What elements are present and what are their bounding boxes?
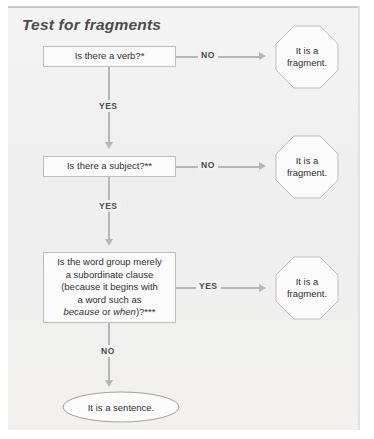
panel-top-rule <box>8 6 360 8</box>
octagon-fragment-1: It is a fragment. <box>275 25 339 89</box>
decision-box-verb[interactable]: Is there a verb?* <box>43 46 176 67</box>
terminal-sentence-label: It is a sentence. <box>88 402 155 413</box>
decision-box-subject[interactable]: Is there a subject?** <box>43 156 176 177</box>
question3-line-1: Is the word group merely <box>57 256 162 268</box>
fragment-2-line-2: fragment. <box>287 167 327 178</box>
question3-line-4: a word such as <box>57 294 162 306</box>
fragment-3-line-2: fragment. <box>287 288 327 299</box>
edge-q3-no-arrowhead <box>105 380 113 387</box>
edge-q1-no-arrowhead <box>259 52 266 60</box>
question3-line-2: a subordinate clause <box>57 269 162 281</box>
octagon-fragment-3: It is a fragment. <box>275 256 339 320</box>
edge-q2-no-arrowhead <box>259 162 266 170</box>
fragment-1-line-1: It is a <box>296 45 319 56</box>
edge-q1-yes-arrowhead <box>105 142 113 149</box>
octagon-fragment-1-label: It is a fragment. <box>287 45 327 70</box>
edge-label-q2-no: NO <box>198 159 218 171</box>
edge-label-q1-no: NO <box>198 49 218 61</box>
octagon-fragment-3-label: It is a fragment. <box>287 276 327 301</box>
edge-q3-yes-arrowhead <box>259 284 266 292</box>
decision-box-verb-label: Is there a verb?* <box>75 50 145 62</box>
panel-right-rule <box>358 6 360 430</box>
octagon-fragment-2-label: It is a fragment. <box>287 155 327 180</box>
fragment-2-line-1: It is a <box>296 155 319 166</box>
figure-title: Test for fragments <box>22 16 161 34</box>
edge-label-q3-no: NO <box>98 345 118 357</box>
edge-q2-yes-arrowhead <box>105 239 113 246</box>
question3-line-5: because or when)?*** <box>57 306 162 318</box>
question3-line-3: (because it begins with <box>57 281 162 293</box>
decision-box-subject-label: Is there a subject?** <box>67 160 152 172</box>
question3-italic-when: when <box>113 306 136 317</box>
fragment-3-line-1: It is a <box>296 276 319 287</box>
question3-footnote-marks: )?*** <box>136 306 156 317</box>
flowchart-figure: Test for fragments Is there a verb?* NO … <box>0 0 374 439</box>
question3-conjunction: or <box>99 306 113 317</box>
decision-box-subordinate-clause-label: Is the word group merely a subordinate c… <box>57 256 162 318</box>
question3-italic-because: because <box>64 306 100 317</box>
fragment-1-line-2: fragment. <box>287 57 327 68</box>
edge-label-q3-yes: YES <box>196 280 221 292</box>
edge-label-q2-yes: YES <box>96 200 121 212</box>
decision-box-subordinate-clause[interactable]: Is the word group merely a subordinate c… <box>43 252 176 323</box>
terminal-sentence: It is a sentence. <box>62 391 180 423</box>
octagon-fragment-2: It is a fragment. <box>275 135 339 199</box>
edge-label-q1-yes: YES <box>96 100 121 112</box>
